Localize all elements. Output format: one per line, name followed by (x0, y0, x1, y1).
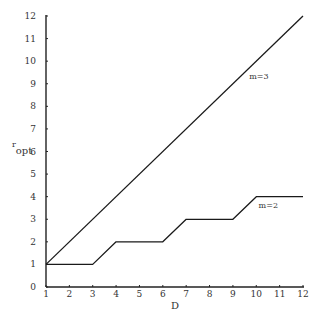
x-tick-label: 12 (297, 289, 308, 299)
x-tick-label: 9 (230, 289, 236, 299)
x-tick-label: 6 (160, 289, 166, 299)
y-tick-label: 0 (30, 282, 36, 292)
x-tick-label: 10 (251, 289, 263, 299)
y-tick-label: 11 (25, 34, 36, 44)
y-tick-label: 4 (30, 192, 36, 202)
x-tick-label: 4 (113, 289, 119, 299)
x-axis-title: D (171, 300, 179, 311)
y-axis-title-sub: opt (16, 145, 32, 156)
x-tick-label: 3 (90, 289, 96, 299)
series-label: m=3 (249, 72, 268, 81)
y-tick-label: 10 (25, 56, 37, 66)
x-tick-label: 1 (43, 289, 49, 299)
y-tick-label: 2 (30, 237, 36, 247)
y-axis-title: ropt (12, 140, 32, 156)
series-labels: m=3m=2 (249, 72, 278, 210)
series-line-m-3 (46, 16, 303, 264)
y-tick-label: 8 (30, 101, 36, 111)
chart-canvas: 123456789101112 0123456789101112 m=3m=2 … (0, 0, 320, 317)
y-tick-label: 12 (25, 11, 36, 21)
y-tick-label: 7 (30, 124, 36, 134)
y-tick-label: 1 (30, 259, 36, 269)
y-tick-label: 5 (30, 169, 36, 179)
x-tick-label: 2 (66, 289, 72, 299)
x-tick-label: 5 (137, 289, 143, 299)
x-tick-label: 8 (207, 289, 213, 299)
x-tick-label: 11 (274, 289, 285, 299)
axes (46, 15, 304, 287)
plot-series (46, 16, 303, 264)
series-label: m=2 (259, 201, 278, 210)
y-tick-label: 9 (30, 79, 36, 89)
x-tick-label: 7 (183, 289, 189, 299)
y-tick-label: 3 (30, 214, 36, 224)
